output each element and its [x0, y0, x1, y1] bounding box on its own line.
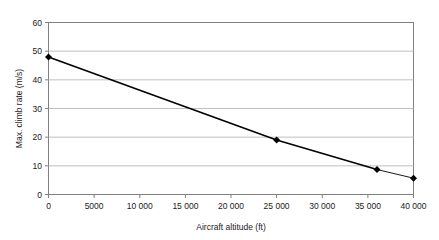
y-tick-label-50: 50 [33, 46, 43, 56]
x-tick-label-40000: 40 000 [401, 201, 427, 211]
y-tick-label-30: 30 [33, 104, 43, 114]
x-tick-label-20000: 20 000 [218, 201, 244, 211]
x-tick-label-35000: 35 000 [355, 201, 381, 211]
x-tick-label-0: 0 [46, 201, 51, 211]
x-axis-title: Aircraft altitude (ft) [196, 222, 266, 232]
y-tick-label-10: 10 [33, 161, 43, 171]
x-tick-label-10000: 10 000 [127, 201, 153, 211]
x-tick-label-5000: 5000 [85, 201, 104, 211]
x-axis-tick-labels: 0 5000 10 000 15 000 20 000 25 000 30 00… [46, 201, 427, 211]
y-tick-label-40: 40 [33, 75, 43, 85]
y-tick-label-60: 60 [33, 18, 43, 28]
chart-canvas: 60 50 40 30 20 10 0 0 5000 10 000 15 000… [0, 0, 439, 240]
x-tick-label-25000: 25 000 [264, 201, 290, 211]
y-axis-title: Max. climb rate (m/s) [14, 69, 24, 149]
y-tick-label-0: 0 [37, 190, 42, 200]
x-tick-label-30000: 30 000 [309, 201, 335, 211]
climb-rate-chart: 60 50 40 30 20 10 0 0 5000 10 000 15 000… [0, 0, 439, 240]
x-tick-label-15000: 15 000 [172, 201, 198, 211]
y-tick-label-20: 20 [33, 132, 43, 142]
